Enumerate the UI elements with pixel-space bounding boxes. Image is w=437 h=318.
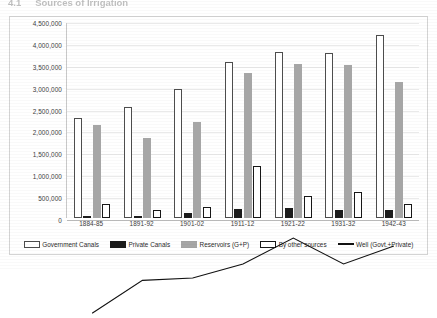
y-axis-tick-label: 1,500,000 (33, 151, 62, 158)
legend-swatch-res-icon (181, 241, 197, 248)
y-axis-tick-label: 4,500,000 (33, 20, 62, 27)
bar-govt[interactable] (124, 107, 132, 218)
legend-label: Government Canals (42, 241, 99, 248)
bar-group (117, 23, 167, 218)
legend-label: Private Canals (129, 241, 171, 248)
bar-other[interactable] (304, 196, 312, 218)
bar-govt[interactable] (225, 62, 233, 218)
y-axis-tick-label: 3,500,000 (33, 63, 62, 70)
x-axis-tick-label: 1901-02 (167, 220, 217, 234)
x-axis-tick-label: 1891-92 (116, 220, 166, 234)
bar-res[interactable] (294, 64, 302, 218)
legend-item[interactable]: Well (Govt.+Private) (338, 241, 414, 248)
y-axis-tick-label: 3,000,000 (33, 85, 62, 92)
y-axis-tick-label: 1,000,000 (33, 173, 62, 180)
legend-item[interactable]: Reservoirs (G+P) (181, 241, 249, 248)
legend-swatch-priv-icon (110, 241, 126, 248)
bar-other[interactable] (404, 204, 412, 218)
bar-priv[interactable] (234, 209, 242, 218)
bar-other[interactable] (203, 207, 211, 218)
bar-other[interactable] (153, 210, 161, 218)
chart-container: 4,500,0004,000,0003,500,0003,000,0002,50… (9, 16, 428, 255)
bar-priv[interactable] (385, 210, 393, 218)
legend-swatch-well-icon (338, 241, 354, 248)
legend-label: Reservoirs (G+P) (200, 241, 250, 248)
bar-priv[interactable] (134, 216, 142, 218)
y-axis-tick-label: 0 (58, 217, 62, 224)
plot-area (66, 23, 419, 218)
bar-priv[interactable] (335, 210, 343, 218)
x-axis-tick-label: 1911-12 (217, 220, 267, 234)
legend-swatch-govt-icon (24, 241, 40, 248)
bar-other[interactable] (102, 204, 110, 218)
bar-priv[interactable] (83, 216, 91, 218)
y-axis-tick-label: 500,000 (38, 195, 62, 202)
x-axis-tick-label: 1884-85 (66, 220, 116, 234)
bar-res[interactable] (193, 122, 201, 218)
legend-label: Well (Govt.+Private) (356, 241, 413, 248)
bar-group (318, 23, 368, 218)
bar-group (369, 23, 419, 218)
legend-item[interactable]: By other sources (260, 241, 326, 248)
legend-swatch-other-icon (260, 241, 276, 248)
y-axis-tick-label: 4,000,000 (33, 41, 62, 48)
x-axis-tick-label: 1921-22 (268, 220, 318, 234)
bar-res[interactable] (395, 82, 403, 218)
chart-plot-wrapper: 4,500,0004,000,0003,500,0003,000,0002,50… (10, 17, 427, 254)
bar-groups (67, 23, 419, 218)
bar-res[interactable] (143, 138, 151, 218)
bar-govt[interactable] (275, 52, 283, 218)
bar-res[interactable] (244, 73, 252, 218)
heading-text: Sources of Irrigation (35, 0, 128, 8)
legend-label: By other sources (279, 241, 327, 248)
bar-govt[interactable] (325, 53, 333, 218)
heading-number: 4.1 (8, 0, 21, 8)
x-axis-labels: 1884-851891-921901-021911-121921-221931-… (66, 220, 419, 234)
chart-legend: Government CanalsPrivate CanalsReservoir… (10, 237, 427, 251)
bar-res[interactable] (344, 65, 352, 218)
bar-other[interactable] (354, 192, 362, 218)
bar-govt[interactable] (376, 35, 384, 218)
legend-item[interactable]: Government Canals (24, 241, 99, 248)
bar-res[interactable] (93, 125, 101, 218)
bar-priv[interactable] (285, 208, 293, 218)
bar-priv[interactable] (184, 213, 192, 218)
bar-group (67, 23, 117, 218)
legend-item[interactable]: Private Canals (110, 241, 170, 248)
bar-group (168, 23, 218, 218)
y-axis-labels: 4,500,0004,000,0003,500,0003,000,0002,50… (12, 17, 64, 254)
bar-group (268, 23, 318, 218)
document-heading: 4.1 Sources of Irrigation (8, 0, 128, 9)
bar-govt[interactable] (174, 89, 182, 218)
y-axis-tick-label: 2,500,000 (33, 107, 62, 114)
x-axis-tick-label: 1931-32 (318, 220, 368, 234)
x-axis-tick-label: 1942-43 (369, 220, 419, 234)
bar-group (218, 23, 268, 218)
bar-govt[interactable] (74, 118, 82, 218)
y-axis-tick-label: 2,000,000 (33, 129, 62, 136)
bar-other[interactable] (253, 166, 261, 218)
